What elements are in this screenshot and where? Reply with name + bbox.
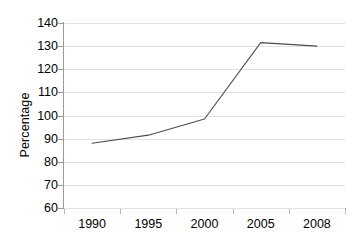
y-axis-tick-label: 90 (20, 132, 58, 145)
y-axis-tickmark (58, 116, 63, 117)
x-axis-tickmark (289, 209, 290, 214)
y-axis-tick-labels: 14013012011010090807060 (20, 0, 58, 250)
y-axis-tick-label: 110 (20, 86, 58, 99)
y-axis-tick-label: 120 (20, 63, 58, 76)
x-axis-tickmark (233, 209, 234, 214)
y-axis-tick-label: 130 (20, 40, 58, 53)
y-axis-tickmark (58, 92, 63, 93)
line-chart: Percentage 14013012011010090807060 19901… (0, 0, 359, 250)
x-axis-tick-label: 2008 (303, 218, 331, 231)
y-axis-tickmark (58, 185, 63, 186)
series-line (64, 23, 345, 208)
y-axis-tick-label: 100 (20, 109, 58, 122)
x-axis-tickmark (64, 209, 65, 214)
y-axis-tick-label: 80 (20, 156, 58, 169)
y-axis-tickmark (58, 23, 63, 24)
x-axis-tick-label: 1990 (78, 218, 106, 231)
y-axis-tickmark (58, 162, 63, 163)
y-axis-tickmark (58, 139, 63, 140)
y-axis-tick-label: 140 (20, 17, 58, 30)
y-axis-tick-label: 60 (20, 202, 58, 215)
plot-area (64, 23, 345, 208)
gridline (64, 208, 345, 209)
y-axis-tickmark (58, 69, 63, 70)
y-axis-tickmark (58, 208, 63, 209)
x-axis-tickmark (176, 209, 177, 214)
y-axis-tick-label: 70 (20, 179, 58, 192)
x-axis-tick-label: 2000 (191, 218, 219, 231)
series-polyline (92, 43, 317, 144)
x-axis-tick-label: 1995 (134, 218, 162, 231)
x-axis-tickmark (120, 209, 121, 214)
x-axis-tick-label: 2005 (247, 218, 275, 231)
y-axis-tickmark (58, 46, 63, 47)
x-axis-tickmark (345, 209, 346, 214)
